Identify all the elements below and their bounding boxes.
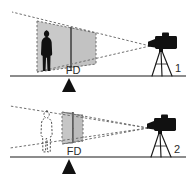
- panel-2-position-marker-triangle: [62, 159, 76, 174]
- panel-1-tripod-leg-left: [152, 51, 160, 76]
- panel-1-fd-plane-fill: [71, 27, 96, 68]
- panel-2: FD 2: [10, 106, 186, 174]
- panel-1-tripod-leg-center: [161, 51, 162, 76]
- panel-1-position-marker-triangle: [62, 78, 76, 92]
- diagram-canvas: FD 1: [0, 0, 192, 187]
- panel-2-tripod-leg-center: [160, 133, 161, 157]
- panel-1-camera-body: [155, 36, 177, 49]
- panel-2-tripod: [151, 133, 171, 157]
- panel-1-camera: [148, 32, 177, 52]
- camera-fov-diagram: FD 1: [0, 0, 192, 187]
- panel-1-tripod: [152, 51, 172, 76]
- panel-2-camera-lens: [147, 121, 154, 130]
- panel-1-camera-mount: [159, 49, 163, 52]
- panel-2-camera-body: [154, 118, 176, 131]
- panel-1-fd-label: FD: [66, 64, 81, 76]
- panel-2-subject-outline: [41, 111, 52, 152]
- panel-2-camera: [147, 114, 176, 134]
- panel-1-camera-viewfinder: [162, 32, 169, 36]
- panel-2-camera-viewfinder: [161, 114, 168, 118]
- panel-2-fd-label: FD: [67, 145, 82, 157]
- panel-1: FD 1: [10, 12, 186, 92]
- panel-2-tripod-leg-right: [161, 133, 171, 157]
- panel-2-person-outline: [41, 111, 52, 152]
- panel-1-camera-lens: [148, 39, 155, 48]
- panel-2-tripod-leg-left: [151, 133, 159, 157]
- panel-2-camera-mount: [158, 131, 162, 134]
- panel-1-tripod-leg-right: [162, 51, 172, 76]
- panel-2-number-label: 2: [174, 143, 180, 155]
- panel-1-number-label: 1: [175, 62, 181, 74]
